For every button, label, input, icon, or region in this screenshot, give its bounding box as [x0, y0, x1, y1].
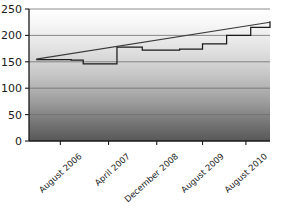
chart-svg: 050100150200250 August 2006April 2007Dec… [0, 0, 281, 210]
y-tick-label: 50 [8, 109, 22, 122]
y-tick-label: 250 [1, 3, 22, 16]
y-tick-label: 0 [15, 135, 22, 148]
y-tick-label: 100 [1, 82, 22, 95]
y-tick-label: 150 [1, 56, 22, 69]
y-tick-label: 200 [1, 29, 22, 42]
y-axis-tick-labels: 050100150200250 [1, 3, 22, 148]
chart-container: 050100150200250 August 2006April 2007Dec… [0, 0, 281, 210]
x-tick-label: April 2007 [93, 151, 132, 188]
x-tick-label: August 2006 [37, 151, 84, 195]
x-tick-label: August 2009 [179, 151, 226, 195]
plot-background [29, 9, 270, 141]
x-tick-label: August 2010 [222, 151, 269, 195]
x-axis-tick-labels: August 2006April 2007December 2008August… [37, 151, 269, 204]
